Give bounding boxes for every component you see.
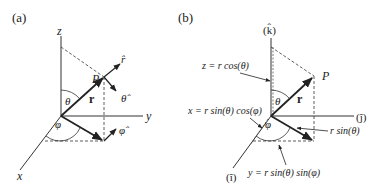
theta-arc: [61, 90, 80, 99]
point-p-label: P: [321, 69, 330, 83]
r-label: r: [297, 92, 303, 106]
dashed-guide: [271, 47, 314, 76]
k-axis-label: (k̂): [263, 23, 276, 37]
r-label: r: [89, 92, 95, 106]
projection-vector: [61, 116, 102, 140]
projection-vector: [271, 116, 312, 140]
phi-hat-vector: [104, 129, 116, 141]
x-equation: x = r sin(θ) cos(φ): [187, 105, 263, 117]
theta-label: θ: [65, 95, 71, 107]
spherical-coordinates-diagram: (a) z y x θ φ r P r̂ θ̂ φ̂ (b) (k̂) (ĵ) …: [0, 0, 384, 192]
panel-b: (b) (k̂) (ĵ) (î) θ φ r P z = r cos(θ) x …: [178, 10, 367, 184]
theta-arc: [271, 90, 290, 99]
phi-label: φ: [55, 118, 61, 130]
r-hat-label: r̂: [121, 53, 126, 65]
y-equation-pointer: [279, 145, 286, 165]
theta-label: θ: [275, 95, 281, 107]
r-sin-theta-pointer: [297, 128, 328, 131]
z-equation: z = r cos(θ): [201, 60, 250, 72]
x-equation-pointer: [250, 118, 262, 128]
z-axis-label: z: [56, 24, 62, 38]
r-hat-vector: [104, 64, 120, 77]
i-axis-label: (î): [226, 171, 237, 184]
y-axis-label: y: [145, 109, 152, 123]
panel-b-label: (b): [178, 10, 193, 25]
point-p-label: P: [91, 72, 100, 86]
panel-a-label: (a): [12, 10, 26, 25]
z-equation-pointer: [240, 73, 270, 81]
x-axis-label: x: [16, 169, 23, 183]
phi-hat-label: φ̂: [119, 124, 130, 136]
r-sin-theta-label: r sin(θ): [330, 125, 360, 137]
phi-arc: [46, 128, 80, 141]
theta-hat-label: θ̂: [121, 92, 131, 104]
j-axis-label: (ĵ): [356, 111, 367, 124]
panel-a: (a) z y x θ φ r P r̂ θ̂ φ̂: [12, 10, 152, 183]
theta-hat-vector: [104, 77, 116, 91]
y-equation: y = r sin(θ) sin(φ): [247, 167, 321, 179]
phi-label: φ: [265, 118, 271, 130]
